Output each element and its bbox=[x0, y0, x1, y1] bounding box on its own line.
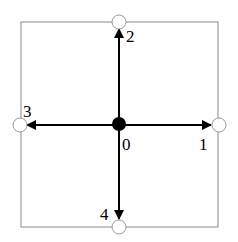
lattice-diagram: 0 1 2 3 4 bbox=[0, 0, 238, 242]
label-south: 4 bbox=[100, 205, 109, 224]
label-east: 1 bbox=[199, 135, 208, 154]
label-center: 0 bbox=[122, 135, 131, 154]
node-south bbox=[112, 220, 126, 234]
node-east bbox=[212, 118, 226, 132]
center-node bbox=[112, 117, 126, 131]
label-north: 2 bbox=[126, 27, 135, 46]
node-north bbox=[112, 15, 126, 29]
label-west: 3 bbox=[23, 102, 32, 121]
